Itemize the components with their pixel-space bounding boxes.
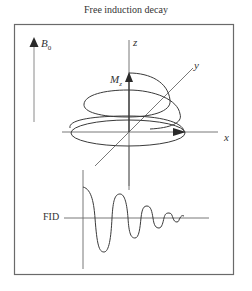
b0-label-subscript: 0 (48, 44, 52, 52)
magnetization-spiral (70, 73, 185, 146)
mz-arrow-icon (125, 72, 133, 132)
fid-signal-curve (83, 187, 184, 252)
mz-label-text: M (110, 73, 119, 85)
x-axis-label: x (224, 131, 229, 143)
b0-label: B0 (41, 37, 51, 52)
mz-label: Mz (110, 73, 122, 88)
fid-label: FID (43, 211, 59, 222)
z-axis-label: z (133, 36, 137, 48)
diagram-canvas (0, 0, 252, 291)
frame-border (15, 25, 234, 275)
b0-arrow-icon (30, 37, 39, 122)
b0-label-text: B (41, 37, 48, 49)
y-axis-label: y (194, 59, 199, 71)
fid-diagram: Free induction decay (0, 0, 252, 291)
mz-label-subscript: z (119, 80, 122, 88)
